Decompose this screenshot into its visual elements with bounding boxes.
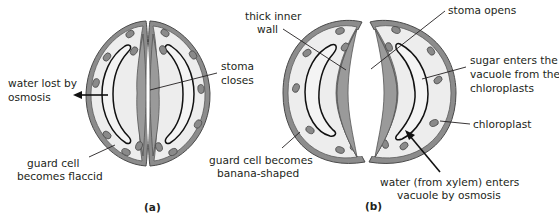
label-stoma-opens: stoma opens bbox=[448, 4, 516, 16]
arrow-left-icon bbox=[73, 91, 82, 99]
label-thick-wall-line1: thick inner bbox=[245, 10, 302, 22]
annotation-chloroplast: chloroplast bbox=[440, 118, 531, 130]
panel-label-b: (b) bbox=[365, 200, 382, 212]
guard-cell-left-a bbox=[86, 21, 148, 166]
label-water-lost-line1: water lost by bbox=[8, 77, 77, 89]
label-chloroplast: chloroplast bbox=[473, 118, 531, 130]
panel-label-a: (a) bbox=[144, 201, 161, 213]
annotation-guard-cell-flaccid: guard cell becomes flaccid bbox=[17, 145, 115, 182]
label-water-lost-line2: osmosis bbox=[8, 91, 51, 103]
label-thick-wall-line2: wall bbox=[257, 23, 278, 35]
label-flaccid-line1: guard cell bbox=[27, 157, 79, 169]
label-sugar-line3: chloroplasts bbox=[470, 82, 534, 94]
label-stoma-closes-line2: closes bbox=[221, 74, 254, 86]
label-banana-line1: guard cell becomes bbox=[209, 154, 313, 166]
label-banana-line2: banana-shaped bbox=[217, 167, 299, 179]
panel-b-open-stoma: thick inner wall stoma opens sugar enter… bbox=[209, 4, 559, 212]
label-stoma-closes-line1: stoma bbox=[221, 60, 254, 72]
label-flaccid-line2: becomes flaccid bbox=[17, 170, 103, 182]
label-sugar-line2: vacuole from the bbox=[470, 68, 559, 80]
guard-cell-right-a bbox=[148, 21, 210, 166]
label-water-enters-line1: water (from xylem) enters bbox=[380, 176, 519, 188]
panel-a-closed-stoma: water lost by osmosis stoma closes guard… bbox=[8, 21, 254, 213]
label-water-enters-line2: vacuole by osmosis bbox=[397, 189, 501, 201]
label-sugar-line1: sugar enters the bbox=[470, 54, 558, 66]
stomata-diagram: water lost by osmosis stoma closes guard… bbox=[0, 0, 559, 222]
